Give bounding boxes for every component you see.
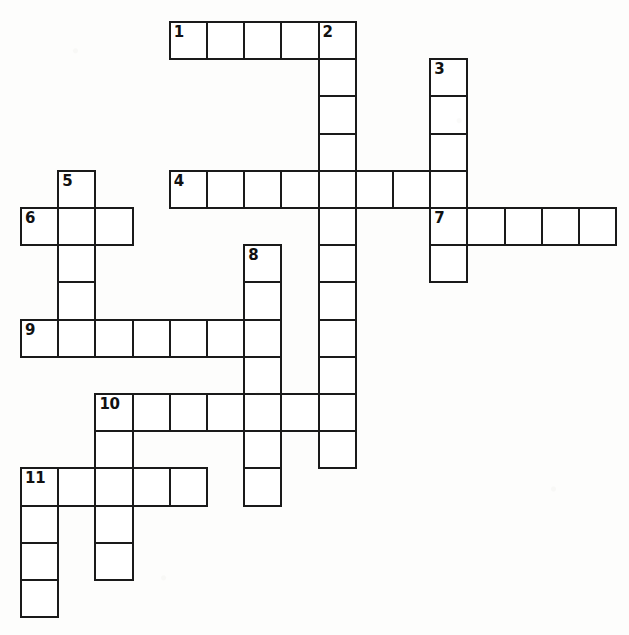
cell-number-1: 1 bbox=[174, 24, 184, 41]
crossword-cell-numbered-2[interactable]: 2 bbox=[318, 21, 357, 60]
crossword-cell[interactable] bbox=[20, 579, 59, 618]
crossword-cell[interactable] bbox=[243, 21, 282, 60]
crossword-cell[interactable] bbox=[318, 281, 357, 320]
crossword-cell[interactable] bbox=[355, 170, 394, 209]
crossword-cell[interactable] bbox=[132, 319, 171, 358]
crossword-cell[interactable] bbox=[94, 542, 133, 581]
crossword-cell[interactable] bbox=[57, 467, 96, 506]
crossword-puzzle: 1235467891011 bbox=[0, 0, 629, 635]
crossword-cell[interactable] bbox=[280, 393, 319, 432]
crossword-cell[interactable] bbox=[280, 21, 319, 60]
cell-number-6: 6 bbox=[25, 210, 35, 227]
crossword-cell[interactable] bbox=[57, 207, 96, 246]
crossword-cell[interactable] bbox=[20, 542, 59, 581]
crossword-cell[interactable] bbox=[94, 467, 133, 506]
crossword-cell-numbered-1[interactable]: 1 bbox=[169, 21, 208, 60]
crossword-cell[interactable] bbox=[318, 430, 357, 469]
crossword-cell-numbered-9[interactable]: 9 bbox=[20, 319, 59, 358]
crossword-cell[interactable] bbox=[169, 319, 208, 358]
crossword-cell[interactable] bbox=[169, 467, 208, 506]
crossword-cell-numbered-8[interactable]: 8 bbox=[243, 244, 282, 283]
crossword-cell[interactable] bbox=[429, 244, 468, 283]
cell-number-4: 4 bbox=[174, 173, 184, 190]
crossword-cell[interactable] bbox=[206, 319, 245, 358]
cell-number-5: 5 bbox=[62, 173, 72, 190]
crossword-cell[interactable] bbox=[57, 244, 96, 283]
crossword-cell[interactable] bbox=[578, 207, 617, 246]
crossword-cell-numbered-7[interactable]: 7 bbox=[429, 207, 468, 246]
crossword-cell[interactable] bbox=[318, 356, 357, 395]
crossword-cell[interactable] bbox=[206, 393, 245, 432]
crossword-cell[interactable] bbox=[318, 58, 357, 97]
crossword-cell-numbered-10[interactable]: 10 bbox=[94, 393, 133, 432]
crossword-cell[interactable] bbox=[392, 170, 431, 209]
crossword-cell-numbered-4[interactable]: 4 bbox=[169, 170, 208, 209]
crossword-cell[interactable] bbox=[20, 505, 59, 544]
crossword-cell[interactable] bbox=[429, 95, 468, 134]
crossword-cell[interactable] bbox=[318, 207, 357, 246]
crossword-cell-numbered-3[interactable]: 3 bbox=[429, 58, 468, 97]
crossword-cell-numbered-11[interactable]: 11 bbox=[20, 467, 59, 506]
crossword-cell[interactable] bbox=[57, 281, 96, 320]
crossword-cell[interactable] bbox=[429, 133, 468, 172]
crossword-cell[interactable] bbox=[280, 170, 319, 209]
cell-number-2: 2 bbox=[323, 24, 333, 41]
crossword-cell[interactable] bbox=[318, 319, 357, 358]
crossword-cell[interactable] bbox=[318, 133, 357, 172]
cell-number-8: 8 bbox=[248, 247, 258, 264]
cell-number-9: 9 bbox=[25, 322, 35, 339]
crossword-cell[interactable] bbox=[243, 356, 282, 395]
crossword-cell[interactable] bbox=[466, 207, 505, 246]
cell-number-3: 3 bbox=[434, 61, 444, 78]
crossword-cell[interactable] bbox=[132, 467, 171, 506]
cell-number-11: 11 bbox=[25, 470, 45, 487]
crossword-cell[interactable] bbox=[132, 393, 171, 432]
crossword-cell[interactable] bbox=[243, 170, 282, 209]
crossword-cell[interactable] bbox=[94, 430, 133, 469]
crossword-cell[interactable] bbox=[206, 21, 245, 60]
crossword-cell[interactable] bbox=[318, 244, 357, 283]
crossword-cell[interactable] bbox=[243, 430, 282, 469]
crossword-cell[interactable] bbox=[94, 319, 133, 358]
cell-number-7: 7 bbox=[434, 210, 444, 227]
crossword-cell[interactable] bbox=[206, 170, 245, 209]
crossword-cell[interactable] bbox=[169, 393, 208, 432]
crossword-cell-numbered-6[interactable]: 6 bbox=[20, 207, 59, 246]
crossword-cell[interactable] bbox=[243, 393, 282, 432]
cell-number-10: 10 bbox=[99, 396, 119, 413]
crossword-cell[interactable] bbox=[243, 319, 282, 358]
crossword-cell[interactable] bbox=[94, 207, 133, 246]
crossword-cell[interactable] bbox=[318, 95, 357, 134]
crossword-cell[interactable] bbox=[318, 170, 357, 209]
crossword-cell[interactable] bbox=[94, 505, 133, 544]
crossword-cell[interactable] bbox=[57, 319, 96, 358]
crossword-cell[interactable] bbox=[318, 393, 357, 432]
crossword-cell[interactable] bbox=[541, 207, 580, 246]
crossword-cell-numbered-5[interactable]: 5 bbox=[57, 170, 96, 209]
crossword-cell[interactable] bbox=[504, 207, 543, 246]
crossword-cell[interactable] bbox=[243, 467, 282, 506]
crossword-cell[interactable] bbox=[243, 281, 282, 320]
crossword-cell[interactable] bbox=[429, 170, 468, 209]
